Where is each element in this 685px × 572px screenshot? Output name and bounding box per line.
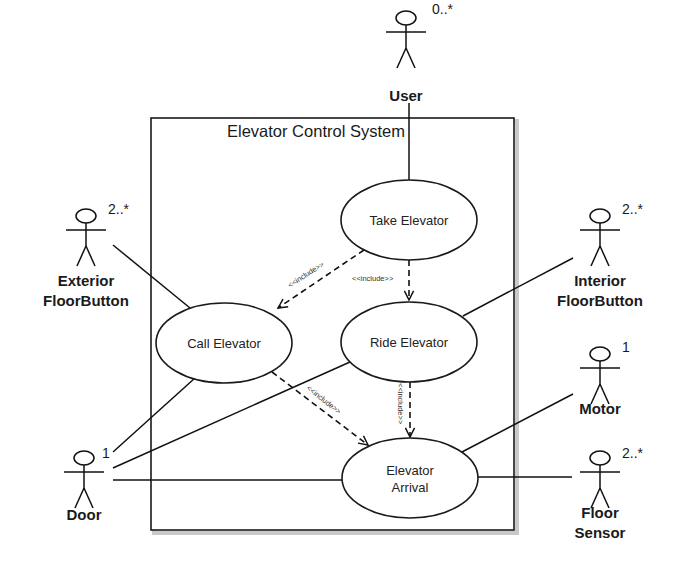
use-case-label: Take Elevator bbox=[370, 213, 449, 228]
multiplicity: 2..* bbox=[622, 445, 644, 461]
actor-exterior[interactable]: 2..*ExteriorFloorButton bbox=[43, 201, 129, 309]
actor-label: Interior bbox=[574, 272, 626, 289]
multiplicity: 2..* bbox=[622, 201, 644, 217]
use-case-ride[interactable]: Ride Elevator bbox=[341, 302, 477, 382]
actor-label: FloorButton bbox=[43, 292, 129, 309]
include-label: <<include>> bbox=[352, 274, 394, 283]
use-case-arrival[interactable]: ElevatorArrival bbox=[342, 438, 478, 518]
stick-figure-icon bbox=[386, 11, 426, 68]
actor-label: User bbox=[389, 87, 423, 104]
actor-motor[interactable]: 1Motor bbox=[579, 339, 630, 417]
use-case-label: Elevator bbox=[386, 463, 434, 478]
system-title: Elevator Control System bbox=[227, 122, 405, 140]
multiplicity: 2..* bbox=[108, 201, 130, 217]
actor-label: Floor bbox=[581, 504, 619, 521]
stick-figure-icon bbox=[66, 209, 106, 266]
actor-floor-sensor[interactable]: 2..*FloorSensor bbox=[575, 445, 644, 541]
include-label: <<include>> bbox=[396, 383, 405, 425]
actor-door[interactable]: 1Door bbox=[64, 445, 110, 523]
use-case-ellipse[interactable] bbox=[342, 438, 478, 518]
actor-label: Door bbox=[67, 506, 102, 523]
multiplicity: 1 bbox=[622, 339, 630, 355]
actor-user[interactable]: 0..*User bbox=[386, 1, 454, 104]
use-case-label: Call Elevator bbox=[187, 336, 261, 351]
stick-figure-icon bbox=[580, 209, 620, 266]
use-case-label: Ride Elevator bbox=[370, 335, 449, 350]
use-case-label: Arrival bbox=[392, 480, 429, 495]
actor-label: Sensor bbox=[575, 524, 626, 541]
multiplicity: 0..* bbox=[432, 1, 454, 17]
actor-interior[interactable]: 2..*InteriorFloorButton bbox=[557, 201, 643, 309]
actor-label: Exterior bbox=[58, 272, 115, 289]
multiplicity: 1 bbox=[102, 445, 110, 461]
actor-label: FloorButton bbox=[557, 292, 643, 309]
actor-label: Motor bbox=[579, 400, 621, 417]
use-case-diagram: Elevator Control System <<include>><<inc… bbox=[0, 0, 685, 572]
stick-figure-icon bbox=[580, 347, 620, 404]
use-case-take[interactable]: Take Elevator bbox=[341, 180, 477, 260]
use-case-call[interactable]: Call Elevator bbox=[156, 303, 292, 383]
stick-figure-icon bbox=[64, 451, 104, 508]
stick-figure-icon bbox=[580, 451, 620, 508]
